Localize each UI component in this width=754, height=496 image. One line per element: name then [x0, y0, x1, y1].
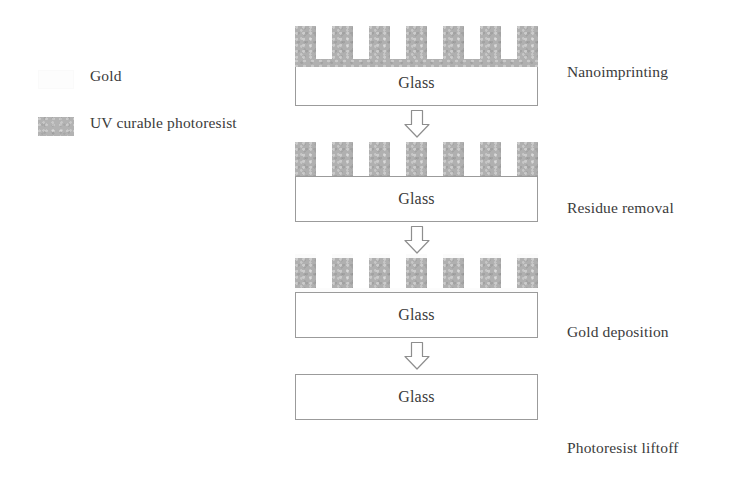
photoresist-pillar — [295, 26, 316, 60]
photoresist-pillar — [480, 26, 501, 60]
flow-arrow-2 — [295, 222, 538, 258]
photoresist-pattern-nanoimprinting — [295, 26, 538, 60]
glass-substrate: Glass — [295, 176, 538, 222]
photoresist-pillar — [406, 142, 427, 176]
down-arrow-icon — [402, 225, 432, 255]
legend-item-gold: Gold — [38, 66, 253, 89]
photoresist-pillar — [332, 258, 353, 292]
process-flow: Glass Glass — [295, 26, 538, 420]
photoresist-pillar — [369, 258, 390, 292]
photoresist-pillar — [443, 142, 464, 176]
photoresist-pillar — [480, 258, 501, 292]
residual-resist-layer — [295, 59, 538, 67]
gold-cap — [443, 254, 464, 258]
photoresist-pillar — [443, 26, 464, 60]
stage-nanoimprinting: Glass — [295, 26, 538, 106]
gold-cap — [517, 254, 538, 258]
stage-gold-deposition: Glass — [295, 258, 538, 338]
photoresist-pillar — [295, 142, 316, 176]
pillar-row — [295, 258, 538, 292]
glass-label: Glass — [398, 306, 435, 324]
flow-arrow-3 — [295, 338, 538, 374]
gold-cap — [332, 254, 353, 258]
flow-arrow-1 — [295, 106, 538, 142]
photoresist-pillar — [517, 258, 538, 292]
photoresist-pillar — [443, 258, 464, 292]
photoresist-swatch — [38, 117, 74, 136]
step-label-photoresist-liftoff: Photoresist liftoff — [567, 439, 679, 457]
photoresist-pattern-gold-deposition — [295, 258, 538, 292]
photoresist-pillar — [332, 26, 353, 60]
gold-cap — [480, 254, 501, 258]
step-label-residue-removal: Residue removal — [567, 199, 674, 217]
stage-residue-removal: Glass — [295, 142, 538, 222]
legend: Gold UV curable photoresist — [38, 66, 253, 160]
step-label-gold-deposition: Gold deposition — [567, 323, 669, 341]
photoresist-pillar — [517, 142, 538, 176]
photoresist-pillar — [369, 26, 390, 60]
photoresist-pillar — [517, 26, 538, 60]
gold-cap — [295, 254, 316, 258]
down-arrow-icon — [402, 109, 432, 139]
photoresist-pillar — [295, 258, 316, 292]
legend-label-gold: Gold — [90, 66, 122, 86]
step-label-nanoimprinting: Nanoimprinting — [567, 63, 668, 81]
gold-cap — [406, 254, 427, 258]
photoresist-pattern-residue-removal — [295, 142, 538, 176]
glass-label: Glass — [398, 388, 435, 406]
photoresist-pillar — [369, 142, 390, 176]
gold-cap — [369, 254, 390, 258]
pillar-row — [295, 142, 538, 176]
glass-substrate: Glass — [295, 374, 538, 420]
photoresist-pillar — [332, 142, 353, 176]
glass-label: Glass — [398, 74, 435, 92]
photoresist-pillar — [406, 258, 427, 292]
photoresist-pillar — [406, 26, 427, 60]
legend-item-photoresist: UV curable photoresist — [38, 113, 253, 136]
glass-substrate: Glass — [295, 292, 538, 338]
gold-film-layer — [295, 288, 538, 292]
glass-label: Glass — [398, 190, 435, 208]
photoresist-pillar — [480, 142, 501, 176]
down-arrow-icon — [402, 341, 432, 371]
pillar-row — [295, 26, 538, 60]
legend-label-photoresist: UV curable photoresist — [90, 113, 237, 133]
stage-photoresist-liftoff: Glass — [295, 374, 538, 420]
gold-swatch — [38, 70, 74, 89]
